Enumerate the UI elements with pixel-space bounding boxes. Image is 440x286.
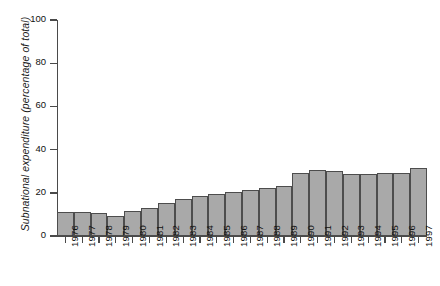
x-tick-label: 1992 xyxy=(339,225,350,247)
x-tick-label: 1976 xyxy=(69,225,80,247)
x-tick-label: 1988 xyxy=(271,225,282,247)
x-tick-mark xyxy=(351,237,352,243)
x-tick-mark xyxy=(216,237,217,243)
x-tick-mark xyxy=(334,237,335,243)
x-tick-mark xyxy=(250,237,251,243)
x-tick-mark xyxy=(300,237,301,243)
x-tick-mark xyxy=(368,237,369,243)
x-tick-label: 1977 xyxy=(86,225,97,247)
x-tick-mark xyxy=(82,237,83,243)
y-tick-label: 0 xyxy=(10,229,46,240)
y-tick-mark xyxy=(50,19,57,20)
y-tick-label: 100 xyxy=(10,13,46,24)
x-tick-mark xyxy=(132,237,133,243)
x-tick-mark xyxy=(283,237,284,243)
x-tick-mark xyxy=(65,237,66,243)
x-tick-label: 1993 xyxy=(355,225,366,247)
x-tick-label: 1983 xyxy=(187,225,198,247)
y-axis-line xyxy=(57,20,58,237)
x-tick-label: 1978 xyxy=(103,225,114,247)
y-tick-mark xyxy=(50,106,57,107)
x-tick-mark xyxy=(166,237,167,243)
y-tick-label: 40 xyxy=(10,143,46,154)
x-tick-label: 1984 xyxy=(204,225,215,247)
y-tick-mark xyxy=(50,192,57,193)
bar-chart: Subnational expenditure (percentage of t… xyxy=(0,0,440,286)
x-tick-label: 1986 xyxy=(238,225,249,247)
x-tick-label: 1980 xyxy=(137,225,148,247)
y-tick-mark xyxy=(50,63,57,64)
x-tick-mark xyxy=(418,237,419,243)
y-tick-mark xyxy=(50,149,57,150)
x-tick-label: 1990 xyxy=(305,225,316,247)
y-axis-label: Subnational expenditure (percentage of t… xyxy=(14,4,36,244)
x-tick-mark xyxy=(384,237,385,243)
x-tick-label: 1995 xyxy=(389,225,400,247)
x-tick-mark xyxy=(233,237,234,243)
x-tick-mark xyxy=(199,237,200,243)
x-tick-label: 1991 xyxy=(322,225,333,247)
x-tick-mark xyxy=(401,237,402,243)
x-tick-label: 1979 xyxy=(120,225,131,247)
x-tick-mark xyxy=(98,237,99,243)
x-tick-label: 1982 xyxy=(170,225,181,247)
x-tick-mark xyxy=(183,237,184,243)
x-tick-mark xyxy=(115,237,116,243)
x-tick-label: 1994 xyxy=(372,225,383,247)
y-tick-mark xyxy=(50,235,57,236)
x-tick-mark xyxy=(149,237,150,243)
x-tick-label: 1997 xyxy=(423,225,434,247)
x-tick-label: 1989 xyxy=(288,225,299,247)
x-tick-mark xyxy=(317,237,318,243)
x-tick-label: 1981 xyxy=(154,225,165,247)
y-tick-label: 80 xyxy=(10,56,46,67)
y-tick-label: 20 xyxy=(10,186,46,197)
y-tick-label: 60 xyxy=(10,99,46,110)
x-tick-label: 1987 xyxy=(254,225,265,247)
x-tick-label: 1996 xyxy=(406,225,417,247)
x-tick-label: 1985 xyxy=(221,225,232,247)
x-tick-mark xyxy=(267,237,268,243)
